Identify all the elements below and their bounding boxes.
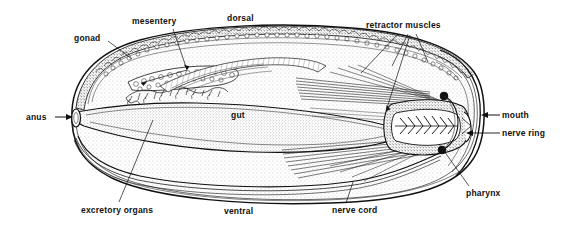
label-nerve-cord: nerve cord: [332, 206, 377, 215]
label-mesentery: mesentery: [132, 17, 176, 26]
worm-anatomy-diagram: gonad mesentery dorsal retractor muscles…: [0, 0, 577, 232]
pharynx-lumen: [392, 109, 461, 145]
label-nerve-ring: nerve ring: [502, 129, 545, 138]
label-retractor-muscles: retractor muscles: [366, 21, 441, 30]
label-gonad: gonad: [74, 34, 101, 43]
pharynx-structure: [384, 100, 470, 155]
label-anus: anus: [26, 113, 47, 122]
label-excretory-organs: excretory organs: [81, 206, 153, 215]
anus-opening: [72, 109, 81, 127]
label-ventral: ventral: [224, 207, 253, 216]
label-pharynx: pharynx: [466, 189, 500, 198]
label-mouth: mouth: [502, 111, 529, 120]
label-dorsal: dorsal: [227, 14, 254, 23]
label-gut: gut: [231, 111, 245, 120]
